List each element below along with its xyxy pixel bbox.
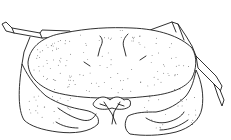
crab-drawing xyxy=(0,0,231,140)
crab-illustration xyxy=(0,0,231,140)
